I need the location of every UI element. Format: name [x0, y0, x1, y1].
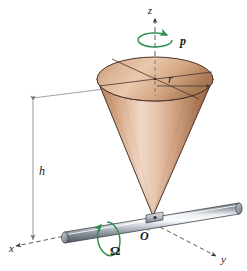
- radius-label: r: [168, 72, 173, 86]
- spin-rate-label: p: [179, 34, 186, 48]
- shaft-left-end-cap: [62, 232, 69, 243]
- diagram-canvas: z p r h x Ω O y: [0, 0, 247, 271]
- y-axis-label: y: [220, 253, 226, 265]
- x-axis-label: x: [8, 242, 14, 254]
- cone-axis-center-point: [154, 78, 156, 80]
- y-axis-line: [160, 227, 216, 256]
- shaft-right-end-cap: [236, 203, 242, 214]
- physics-diagram-cone-on-shaft: z p r h x Ω O y: [0, 0, 247, 271]
- origin-point: [153, 216, 156, 219]
- cone-group: [97, 57, 213, 216]
- precession-rate-label: Ω: [110, 243, 120, 258]
- origin-label: O: [140, 229, 149, 243]
- z-axis-label: z: [147, 4, 153, 16]
- height-label: h: [39, 164, 45, 178]
